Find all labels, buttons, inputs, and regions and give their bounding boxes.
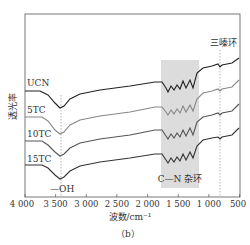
annotation-cn: C—N 杂环 xyxy=(158,174,203,184)
panel-label: （b） xyxy=(116,229,140,239)
y-axis-title: 透光率 xyxy=(7,93,18,120)
svg-text:2 000: 2 000 xyxy=(135,199,159,209)
label-ucn: UCN xyxy=(27,78,49,88)
x-tick-labels: 4 000 3 500 3 000 2 500 2 000 1 500 1 00… xyxy=(10,199,246,209)
x-axis-ticks xyxy=(25,194,240,197)
annotation-triazine: 三嗪环 xyxy=(210,37,237,48)
label-10tc: 10TC xyxy=(27,129,51,139)
series-ucn xyxy=(25,58,239,108)
label-5tc: 5TC xyxy=(27,105,46,115)
svg-text:2 500: 2 500 xyxy=(105,199,129,209)
svg-text:1 000: 1 000 xyxy=(197,199,221,209)
svg-text:1 500: 1 500 xyxy=(166,199,190,209)
svg-text:3 500: 3 500 xyxy=(43,199,67,209)
annotation-oh: —OH xyxy=(50,184,74,194)
ftir-chart: 4 000 3 500 3 000 2 500 2 000 1 500 1 00… xyxy=(0,0,250,245)
series-5tc xyxy=(25,80,239,134)
svg-text:500: 500 xyxy=(230,199,246,209)
x-axis-title: 波数/cm⁻¹ xyxy=(109,211,152,222)
svg-text:3 000: 3 000 xyxy=(74,199,98,209)
svg-text:4 000: 4 000 xyxy=(10,199,34,209)
label-15tc: 15TC xyxy=(27,154,51,164)
cn-heterocycle-band xyxy=(161,60,199,188)
